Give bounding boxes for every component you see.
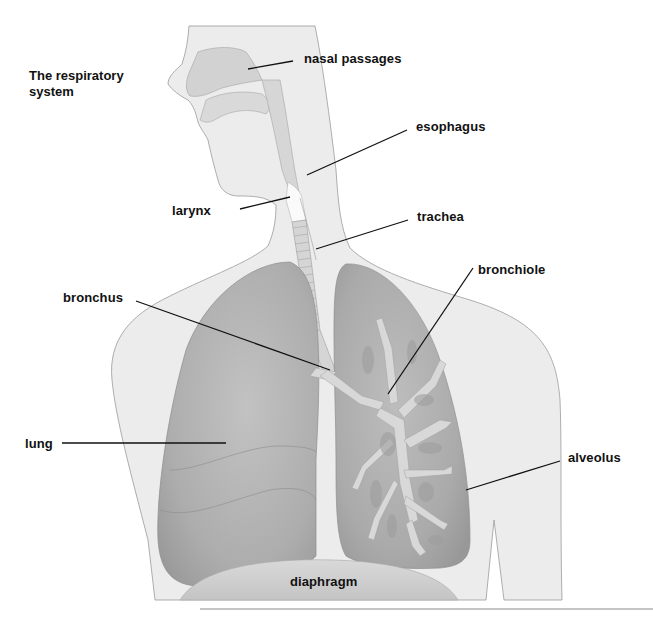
- title-line-2: system: [29, 84, 149, 100]
- label-diaphragm: diaphragm: [290, 575, 357, 588]
- label-esophagus: esophagus: [416, 120, 486, 133]
- label-bronchiole: bronchiole: [478, 263, 545, 276]
- label-larynx: larynx: [172, 204, 211, 217]
- label-bronchus: bronchus: [63, 291, 123, 304]
- label-lung: lung: [25, 437, 53, 450]
- label-trachea: trachea: [417, 210, 464, 223]
- title-line-1: The respiratory: [29, 68, 149, 84]
- label-alveolus: alveolus: [568, 451, 621, 464]
- label-nasal-passages: nasal passages: [304, 52, 402, 65]
- respiratory-system-diagram: The respiratory system nasal passages es…: [0, 0, 653, 629]
- diagram-title: The respiratory system: [29, 68, 149, 100]
